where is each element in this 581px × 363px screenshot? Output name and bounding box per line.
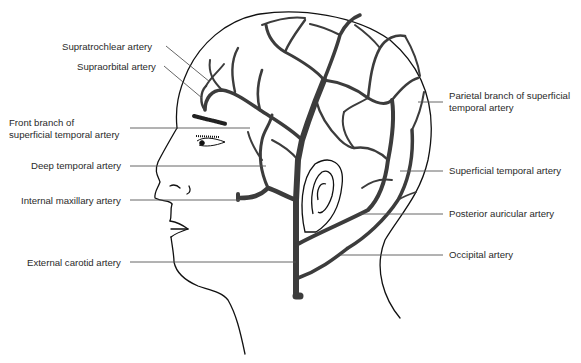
label-parietal-branch-line1: Parietal branch of superficial — [449, 90, 570, 102]
label-supraorbital-artery: Supraorbital artery — [77, 61, 156, 73]
head-illustration — [0, 0, 581, 363]
eyebrow — [194, 116, 226, 124]
label-occipital-artery: Occipital artery — [449, 249, 513, 261]
ear — [302, 160, 342, 232]
label-superficial-temporal-artery: Superficial temporal artery — [449, 165, 561, 177]
label-front-branch-line1: Front branch of — [9, 117, 74, 129]
artery-network — [201, 15, 424, 296]
label-posterior-auricular-artery: Posterior auricular artery — [449, 208, 554, 220]
label-parietal-branch-line2: temporal artery — [449, 102, 514, 114]
label-external-carotid-artery: External carotid artery — [27, 257, 121, 269]
eye — [196, 136, 225, 146]
label-deep-temporal-artery: Deep temporal artery — [31, 160, 121, 172]
label-supratrochlear-artery: Supratrochlear artery — [62, 41, 152, 53]
artery-diagram: Supratrochlear artery Supraorbital arter… — [0, 0, 581, 363]
label-internal-maxillary-artery: Internal maxillary artery — [21, 195, 121, 207]
head-outline — [155, 12, 431, 354]
label-front-branch-line2: superficial temporal artery — [9, 129, 119, 141]
